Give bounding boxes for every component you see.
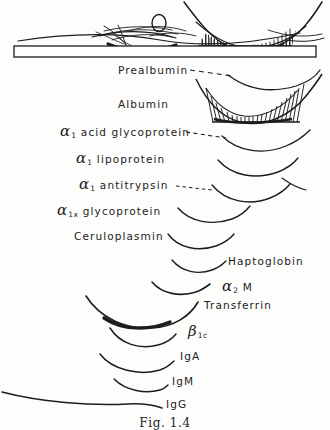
label-albumin: Albumin <box>118 99 169 110</box>
label-haptoglobin: Haptoglobin <box>228 256 304 267</box>
label-prealbumin-text: Prealbumin <box>118 64 188 76</box>
arc-alpha2m <box>152 282 210 294</box>
label-igm: IgM <box>172 376 194 387</box>
label-a1-acid-glycoprotein: α1 acid glycoprotein <box>60 124 190 139</box>
leader-prealbumin <box>190 70 232 76</box>
arc-prealbumin <box>228 70 320 90</box>
arc-transferrin <box>86 296 198 328</box>
beta-subscript: 1c <box>198 331 208 340</box>
label-a1-antitrypsin-text: antitrypsin <box>95 179 168 191</box>
label-transferrin-text: Transferrin <box>204 299 272 311</box>
arc-igg <box>2 392 162 408</box>
alpha-symbol: α <box>222 277 233 295</box>
arc-a1-antitrypsin <box>212 178 306 202</box>
arc-a1-lipoprotein <box>218 158 298 176</box>
label-a1-acid-glycoprotein-text: acid glycoprotein <box>76 126 190 138</box>
label-ceruloplasmin-text: Ceruloplasmin <box>74 230 164 242</box>
label-a1x-glycoprotein: α1x glycoprotein <box>57 203 161 218</box>
arc-albumin <box>196 74 322 124</box>
beta-symbol: β <box>188 322 198 340</box>
electrophoresis-strip <box>14 46 316 57</box>
leader-a1-antitrypsin <box>176 186 212 190</box>
label-a1-lipoprotein-text: lipoprotein <box>92 153 165 165</box>
figure-caption: Fig. 1.4 <box>0 416 330 430</box>
arc-a1-acid-glycoprotein <box>222 130 310 151</box>
label-a1-lipoprotein: α1 lipoprotein <box>76 151 165 166</box>
label-transferrin: Transferrin <box>204 300 272 311</box>
label-prealbumin: Prealbumin <box>118 65 188 76</box>
label-igg-text: IgG <box>166 398 187 410</box>
arc-haptoglobin <box>172 260 226 272</box>
immunoelectrophoresis-figure: Prealbumin Albumin α1 acid glycoprotein … <box>0 0 330 430</box>
arc-a1x-glycoprotein <box>178 206 250 222</box>
label-alpha2m: α2 M <box>222 279 253 294</box>
label-iga: IgA <box>180 351 200 362</box>
label-alpha2m-text: M <box>238 281 253 293</box>
alpha-subscript: 1x <box>68 210 78 219</box>
label-beta1c: β1c <box>188 324 208 339</box>
label-albumin-text: Albumin <box>118 98 169 110</box>
composite-well-circle <box>152 15 166 32</box>
label-igg: IgG <box>166 399 187 410</box>
arc-beta1c <box>110 328 176 347</box>
alpha-symbol: α <box>79 175 90 193</box>
label-igm-text: IgM <box>172 375 194 387</box>
arc-ceruloplasmin <box>168 234 234 249</box>
label-ceruloplasmin: Ceruloplasmin <box>74 231 164 242</box>
arc-igm <box>114 379 168 392</box>
label-haptoglobin-text: Haptoglobin <box>228 255 304 267</box>
label-a1-antitrypsin: α1 antitrypsin <box>79 177 168 192</box>
alpha-symbol: α <box>76 149 87 167</box>
composite-arc-pattern <box>18 2 324 51</box>
alpha-symbol: α <box>57 201 68 219</box>
arc-iga <box>100 354 174 372</box>
label-a1x-glycoprotein-text: glycoprotein <box>78 205 161 217</box>
label-iga-text: IgA <box>180 350 200 362</box>
alpha-symbol: α <box>60 122 71 140</box>
leader-a1-acid-glycoprotein <box>186 132 226 138</box>
